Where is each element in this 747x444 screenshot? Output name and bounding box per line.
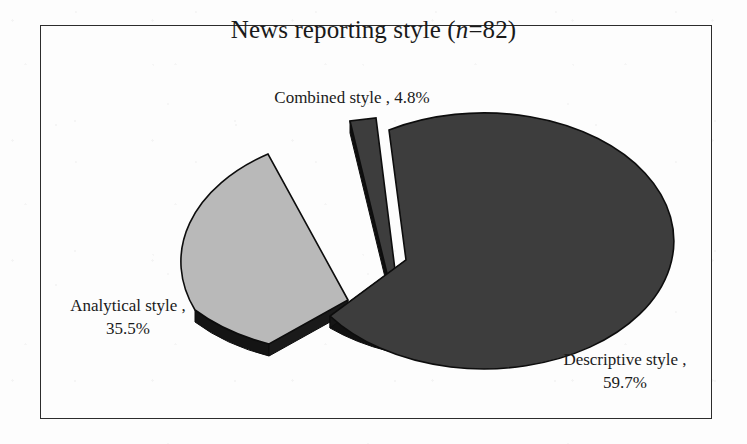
slice-label-combined: Combined style , 4.8% — [232, 86, 472, 109]
slice-label-descriptive-line2: 59.7% — [536, 371, 714, 394]
slice-label-analytical-line1: Analytical style , — [48, 294, 208, 317]
slice-label-analytical-line2: 35.5% — [48, 317, 208, 340]
slice-label-analytical: Analytical style , 35.5% — [48, 294, 208, 340]
pie-slice-combined-top — [350, 118, 395, 294]
slice-label-descriptive: Descriptive style , 59.7% — [536, 348, 714, 394]
figure-page: News reporting style (n=82) Combined sty… — [0, 0, 747, 444]
slice-label-descriptive-line1: Descriptive style , — [536, 348, 714, 371]
